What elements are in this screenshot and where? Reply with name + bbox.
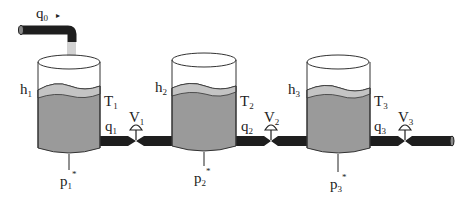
valve-label-1: V1	[129, 109, 144, 127]
valve-label-2: V2	[264, 109, 279, 127]
flow-label-1: q1	[105, 118, 117, 136]
level-label-1: h1	[20, 81, 32, 99]
tank-1	[38, 55, 100, 170]
tank-label-1: T1	[104, 93, 118, 111]
valve-3-icon[interactable]	[399, 125, 411, 140]
inflow-stream	[67, 42, 76, 56]
valve-1-icon[interactable]	[130, 125, 142, 140]
inflow-label: q0	[36, 5, 49, 23]
pressure-label-1: p1*	[60, 169, 77, 191]
inflow-pipe	[19, 26, 77, 57]
pressure-label-2: p2*	[194, 166, 211, 188]
pipe-2	[236, 136, 310, 146]
pipe-3	[370, 136, 454, 146]
pipe-1	[100, 136, 175, 146]
three-tank-diagram: q0 ▸	[0, 0, 470, 200]
valve-2-icon[interactable]	[265, 125, 277, 140]
valve-label-3: V3	[398, 109, 414, 127]
flow-label-3: q3	[374, 118, 387, 136]
tank-label-3: T3	[374, 93, 388, 111]
pressure-label-3: p3*	[330, 172, 347, 194]
inflow-arrow-icon: ▸	[56, 11, 60, 20]
flow-label-2: q2	[241, 118, 253, 136]
tank-3	[307, 55, 370, 172]
level-label-2: h2	[155, 79, 167, 97]
tank-2	[172, 53, 236, 166]
level-label-3: h3	[288, 81, 301, 99]
tank-label-2: T2	[240, 93, 254, 111]
